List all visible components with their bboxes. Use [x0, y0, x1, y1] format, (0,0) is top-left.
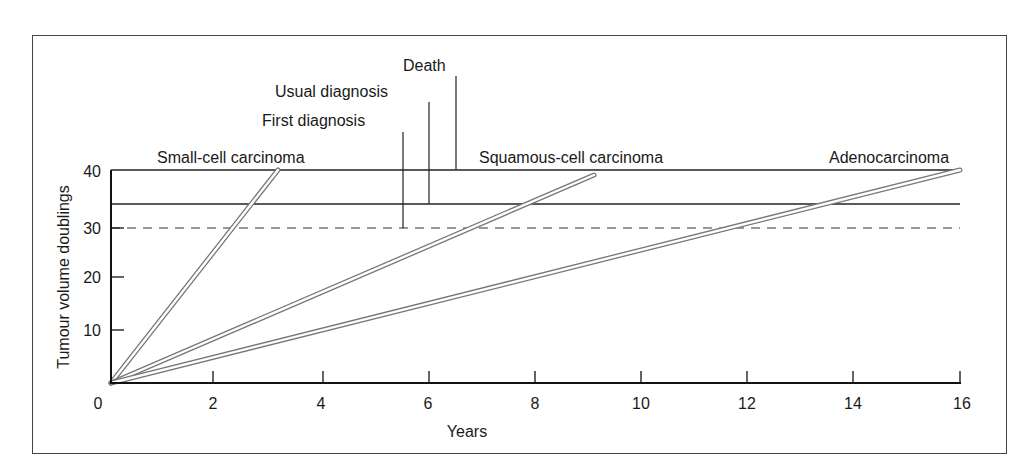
x-tick-label: 10 — [632, 395, 650, 412]
series-small-cell — [111, 170, 278, 383]
x-axis-label: Years — [447, 423, 487, 440]
x-tick-label: 8 — [531, 395, 540, 412]
y-tick-label: 40 — [83, 163, 101, 180]
x-tick-label: 6 — [424, 395, 433, 412]
y-tick-label: 20 — [83, 269, 101, 286]
y-tick-label: 30 — [83, 220, 101, 237]
x-tick-label: 4 — [317, 395, 326, 412]
x-tick-label: 12 — [738, 395, 756, 412]
usual-diagnosis-label: Usual diagnosis — [275, 83, 388, 100]
x-tick-label: 0 — [94, 395, 103, 412]
adeno-label: Adenocarcinoma — [829, 149, 949, 166]
x-tick-label: 2 — [209, 395, 218, 412]
first-diagnosis-label: First diagnosis — [262, 112, 365, 129]
small-cell-label: Small-cell carcinoma — [157, 149, 305, 166]
y-axis-label: Tumour volume doublings — [55, 185, 72, 369]
chart: 10 20 30 40 0 2 4 6 8 10 12 14 16 Years … — [0, 0, 1022, 471]
y-tick-label: 10 — [83, 322, 101, 339]
death-label: Death — [403, 57, 446, 74]
x-tick-label: 14 — [844, 395, 862, 412]
squamous-label: Squamous-cell carcinoma — [479, 149, 663, 166]
x-tick-label: 16 — [953, 395, 971, 412]
